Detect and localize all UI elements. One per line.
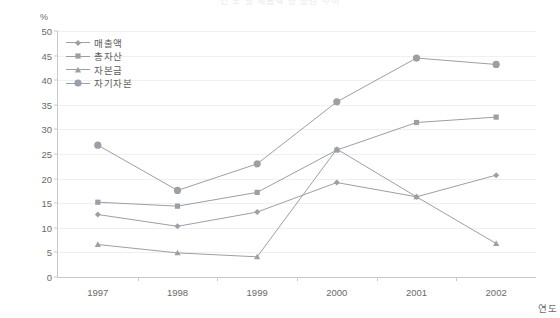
data-point xyxy=(494,115,499,120)
data-point xyxy=(175,204,180,209)
legend-marker-triangle-icon xyxy=(66,65,90,75)
y-axis-tick-label: 25 xyxy=(41,149,52,160)
x-axis-tick-label: 1998 xyxy=(167,287,188,298)
legend-label: 자기자본 xyxy=(94,76,132,90)
data-point xyxy=(175,223,181,229)
legend-item-자본금[interactable]: 자본금 xyxy=(66,63,132,77)
legend-item-총자산[interactable]: 총자산 xyxy=(66,50,132,64)
legend-marker-circle-icon xyxy=(66,78,90,88)
data-point xyxy=(414,120,419,125)
y-axis-unit-label: % xyxy=(40,12,48,22)
chart-legend: 매출액총자산자본금자기자본 xyxy=(62,34,136,92)
x-axis-tick-mark xyxy=(138,277,139,281)
data-point xyxy=(493,240,499,246)
data-point xyxy=(95,212,101,218)
series-매출액 xyxy=(95,172,499,229)
y-axis-tick-label: 40 xyxy=(41,75,52,86)
legend-item-자기자본[interactable]: 자기자본 xyxy=(66,77,132,91)
y-axis-tick-label: 15 xyxy=(41,198,52,209)
x-axis-tick-mark xyxy=(297,277,298,281)
legend-label: 매출액 xyxy=(94,36,123,50)
data-point xyxy=(493,172,499,178)
legend-item-매출액[interactable]: 매출액 xyxy=(66,36,132,50)
y-axis-tick-label: 35 xyxy=(41,99,52,110)
y-axis-tick-label: 50 xyxy=(41,26,52,37)
x-axis-tick-label: 1999 xyxy=(247,287,268,298)
data-point xyxy=(254,160,261,167)
y-axis-tick-label: 30 xyxy=(41,124,52,135)
y-axis-tick-label: 10 xyxy=(41,222,52,233)
data-point xyxy=(333,98,340,105)
line-chart: 연 도 별 매출액 등 증감 추이 % 05101520253035404550… xyxy=(0,0,560,318)
legend-marker-diamond-icon xyxy=(66,38,90,48)
legend-label: 자본금 xyxy=(94,63,123,77)
y-axis-tick-label: 0 xyxy=(47,272,52,283)
data-point xyxy=(95,241,101,247)
y-axis-tick-label: 5 xyxy=(47,247,52,258)
data-point xyxy=(94,142,101,149)
x-axis-tick-mark xyxy=(456,277,457,281)
series-자기자본 xyxy=(94,54,500,194)
data-point xyxy=(174,187,181,194)
x-axis-tick-label: 2002 xyxy=(486,287,507,298)
data-point xyxy=(254,209,260,215)
legend-label: 총자산 xyxy=(94,49,123,63)
x-axis-label: 연도 xyxy=(538,301,558,315)
y-axis-tick-label: 45 xyxy=(41,50,52,61)
data-point xyxy=(493,61,500,68)
series-총자산 xyxy=(95,115,499,209)
legend-marker-square-icon xyxy=(66,51,90,61)
data-point xyxy=(95,200,100,205)
x-axis-tick-mark xyxy=(217,277,218,281)
data-point xyxy=(255,190,260,195)
chart-title: 연 도 별 매출액 등 증감 추이 xyxy=(0,0,560,5)
x-axis-tick-label: 2000 xyxy=(326,287,347,298)
x-axis-tick-label: 2001 xyxy=(406,287,427,298)
data-point xyxy=(334,180,340,186)
data-point xyxy=(413,54,420,61)
x-axis-tick-mark xyxy=(377,277,378,281)
y-axis-tick-label: 20 xyxy=(41,173,52,184)
series-자본금 xyxy=(95,146,500,259)
x-axis-tick-label: 1997 xyxy=(87,287,108,298)
